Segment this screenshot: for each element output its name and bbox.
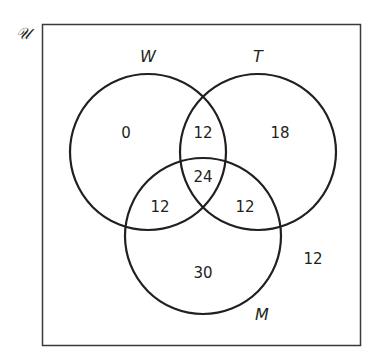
universal-set-label: 𝒰	[16, 24, 35, 43]
region-w-and-t: 12	[193, 124, 212, 142]
set-t-circle	[180, 74, 336, 230]
region-outside: 12	[303, 250, 322, 268]
region-w-and-m: 12	[150, 198, 169, 216]
set-w-label: W	[140, 47, 157, 66]
region-t-only: 18	[270, 124, 289, 142]
region-m-only: 30	[193, 264, 212, 282]
region-w-only: 0	[121, 124, 131, 142]
region-t-and-m: 12	[235, 198, 254, 216]
venn-diagram: 𝒰 W T M 0 18 12 24 12 12 30 12	[0, 0, 382, 364]
region-w-t-m: 24	[193, 168, 212, 186]
set-m-label: M	[255, 305, 269, 324]
set-t-label: T	[253, 47, 264, 66]
